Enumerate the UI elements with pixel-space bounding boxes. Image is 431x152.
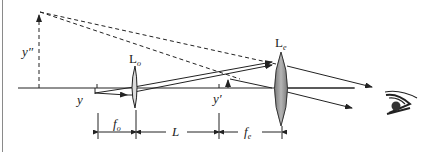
diagram-canvas	[0, 0, 431, 152]
final-image-label: y″	[22, 45, 33, 58]
intermediate-image-arrow	[219, 80, 228, 88]
object-rays	[95, 62, 272, 95]
exit-rays	[287, 66, 372, 108]
focal-eyepiece-label: fe	[244, 125, 251, 141]
virtual-rays	[40, 12, 276, 79]
object-label: y	[77, 93, 83, 106]
dimension-lines	[98, 110, 282, 139]
intermediate-image-label: y′	[213, 92, 222, 105]
objective-lens	[132, 66, 137, 108]
tube-length-label: L	[172, 125, 179, 138]
optics-diagram: Lo Le y″ y y′ fo L fe	[0, 0, 431, 152]
eyepiece-lens-label: Le	[275, 36, 287, 52]
eyepiece-lens	[275, 52, 288, 126]
objective-lens-label: Lo	[129, 52, 141, 68]
focal-objective-label: fo	[113, 117, 121, 133]
eye-icon	[385, 91, 417, 114]
